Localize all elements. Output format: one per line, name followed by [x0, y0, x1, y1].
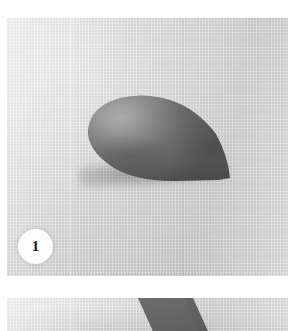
photo-separator-gap	[7, 276, 288, 298]
step-number-badge: 1	[18, 229, 53, 264]
step-number-badge-label: 1	[32, 239, 40, 254]
photo-step-2[interactable]	[7, 298, 288, 331]
tutorial-photo-gallery: 1	[0, 0, 295, 331]
photo-step-1[interactable]: 1	[7, 18, 288, 276]
